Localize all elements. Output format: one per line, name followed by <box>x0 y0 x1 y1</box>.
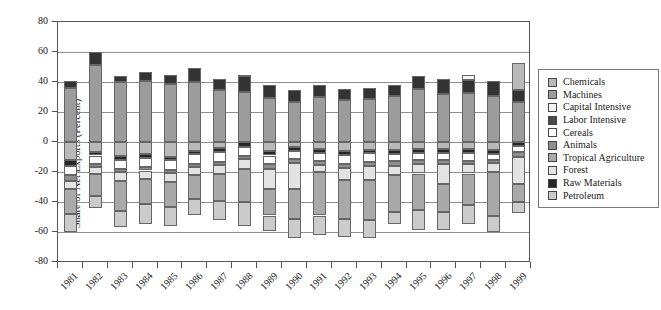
bar-segment-1981-machines <box>64 88 77 142</box>
x-tick-mark <box>430 262 431 268</box>
y-tick-label: 60 <box>18 46 48 56</box>
legend-swatch-icon <box>548 191 557 200</box>
bar-segment-1991-petroleum <box>313 216 326 236</box>
bar-segment-1987-labor-intensive <box>213 79 226 90</box>
bar-segment-1983-forest <box>114 172 127 180</box>
bar-segment-1999-forest <box>512 157 525 184</box>
bar-segment-1989-labor-intensive <box>263 85 276 98</box>
bar-segment-1996-tropical-agriculture <box>437 184 450 212</box>
x-tick-mark <box>480 262 481 268</box>
bar-segment-1983-cereals <box>114 160 127 169</box>
legend-item-cereals: Cereals <box>548 126 658 139</box>
legend-swatch-icon <box>548 166 557 175</box>
bar-segment-1982-chemicals <box>89 142 102 152</box>
legend-swatch-icon <box>548 116 557 125</box>
legend-item-forest: Forest <box>548 164 658 177</box>
bar-segment-1990-forest <box>288 163 301 189</box>
bar-segment-1988-labor-intensive <box>238 76 251 92</box>
bar-segment-1997-machines <box>462 93 475 143</box>
x-tick-mark <box>356 262 357 268</box>
bar-segment-1998-machines <box>487 96 500 143</box>
bar-segment-1995-labor-intensive <box>412 76 425 89</box>
legend-swatch-icon <box>548 153 557 162</box>
bar-segment-1981-labor-intensive <box>64 81 77 89</box>
bar-segment-1982-cereals <box>89 156 102 164</box>
bar-segment-1997-capital-intensive <box>462 75 475 80</box>
bar-segment-1993-petroleum <box>363 220 376 238</box>
bar-segment-1989-tropical-agriculture <box>263 189 276 216</box>
legend-swatch-icon <box>548 103 557 112</box>
bar-segment-1987-petroleum <box>213 201 226 220</box>
bar-segment-1989-petroleum <box>263 216 276 231</box>
bar-segment-1988-machines <box>238 92 251 142</box>
bar-segment-1997-labor-intensive <box>462 80 475 93</box>
legend-label: Tropical Agriculture <box>563 153 645 163</box>
bar-segment-1985-tropical-agriculture <box>164 182 177 207</box>
bar-segment-1994-forest <box>388 166 401 176</box>
bar-segment-1989-chemicals <box>263 142 276 151</box>
legend: ChemicalsMachinesCapital IntensiveLabor … <box>538 69 659 208</box>
bar-segment-1993-chemicals <box>363 142 376 150</box>
bar-segment-1981-forest <box>64 181 77 189</box>
bar-segment-1994-petroleum <box>388 212 401 224</box>
bar-segment-1994-tropical-agriculture <box>388 175 401 212</box>
bar-segment-1996-petroleum <box>437 212 450 230</box>
y-tick-mark <box>52 201 57 202</box>
bar-segment-1996-forest <box>437 164 450 184</box>
bar-segment-1991-cereals <box>313 153 326 161</box>
bar-segment-1988-forest <box>238 159 251 169</box>
x-tick-mark <box>107 262 108 268</box>
net-exports-stacked-bar-chart: Share of Net Exports (Percent) 806040200… <box>0 0 661 310</box>
x-tick-mark <box>157 262 158 268</box>
bar-segment-1988-chemicals <box>238 75 251 77</box>
bar-segment-1984-labor-intensive <box>139 72 152 81</box>
legend-label: Chemicals <box>563 77 605 87</box>
bar-segment-1988-petroleum <box>238 202 251 226</box>
bar-segment-1986-chemicals <box>188 142 201 151</box>
bar-segment-1984-cereals <box>139 158 152 167</box>
bar-segment-1994-cereals <box>388 154 401 161</box>
bar-segment-1985-cereals <box>164 160 177 169</box>
legend-item-petroleum: Petroleum <box>548 189 658 202</box>
bar-segment-1985-machines <box>164 84 177 142</box>
plot-area: Share of Net Exports (Percent) <box>57 21 530 262</box>
bar-segment-1990-machines <box>288 102 301 142</box>
x-tick-mark <box>132 262 133 268</box>
y-tick-label: 0 <box>18 136 48 146</box>
y-tick-label: 20 <box>18 106 48 116</box>
x-tick-mark <box>381 262 382 268</box>
bar-segment-1992-machines <box>338 100 351 142</box>
bar-segment-1997-tropical-agriculture <box>462 174 475 206</box>
gridline-40 <box>58 82 529 83</box>
bar-segment-1982-machines <box>89 65 102 142</box>
bar-segment-1999-tropical-agriculture <box>512 184 525 202</box>
bar-segment-1991-labor-intensive <box>313 85 326 97</box>
bar-segment-1983-chemicals <box>114 142 127 156</box>
bar-segment-1992-tropical-agriculture <box>338 180 351 219</box>
bar-segment-1997-chemicals <box>462 142 475 149</box>
bar-segment-1997-cereals <box>462 153 475 161</box>
y-tick-mark <box>52 21 57 22</box>
bar-segment-1995-cereals <box>412 153 425 160</box>
bar-segment-1984-chemicals <box>139 142 152 154</box>
bar-segment-1995-forest <box>412 164 425 173</box>
bar-segment-1993-machines <box>363 99 376 142</box>
bar-segment-1998-petroleum <box>487 216 500 233</box>
bar-segment-1982-tropical-agriculture <box>89 174 102 197</box>
legend-label: Animals <box>563 140 597 150</box>
y-tick-mark <box>52 51 57 52</box>
bar-segment-1984-machines <box>139 81 152 142</box>
bar-segment-1997-petroleum <box>462 205 475 223</box>
bar-segment-1993-cereals <box>363 153 376 162</box>
bar-segment-1988-cereals <box>238 147 251 156</box>
legend-label: Forest <box>563 165 588 175</box>
bar-segment-1982-labor-intensive <box>89 52 102 65</box>
y-tick-label: -40 <box>18 196 48 206</box>
y-tick-mark <box>52 81 57 82</box>
bar-segment-1993-labor-intensive <box>363 88 376 99</box>
x-tick-mark <box>57 262 58 268</box>
bar-segment-1991-forest <box>313 165 326 173</box>
legend-swatch-icon <box>548 90 557 99</box>
y-tick-mark <box>52 171 57 172</box>
bar-segment-1998-tropical-agriculture <box>487 172 500 216</box>
